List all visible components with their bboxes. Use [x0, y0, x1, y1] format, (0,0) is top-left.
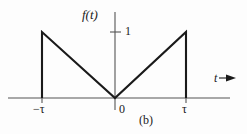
y-axis-label: f(t)	[82, 8, 98, 21]
x-axis-label: t	[214, 72, 217, 84]
x-tick-label-zero: 0	[119, 103, 125, 115]
x-tick-label-tau: τ	[182, 103, 187, 115]
figure-caption: (b)	[139, 114, 153, 126]
waveform-curve	[42, 32, 186, 98]
x-tick-label-negative-tau: −τ	[33, 103, 45, 115]
y-tick-label-one: 1	[125, 25, 131, 37]
figure-container: f(t) 1 t −τ 0 τ (b)	[0, 0, 247, 134]
